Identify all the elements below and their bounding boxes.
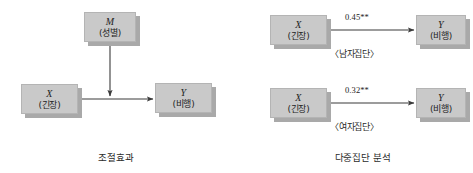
node-moderator-m: M (성별) — [84, 12, 136, 42]
node-variable-symbol: Y — [181, 87, 187, 98]
group-label-female: 〈여자집단〉 — [330, 120, 379, 133]
node-variable-label: (비행) — [172, 99, 194, 109]
node-independent-x-moderation: X (긴장) — [21, 84, 78, 114]
group-label-male: 〈남자집단〉 — [330, 47, 379, 60]
figure-canvas: M (성별) X (긴장) Y (비행) 조절효과 X (긴장) Y (비행) … — [0, 0, 473, 173]
path-coefficient-male: 0.45** — [345, 12, 369, 22]
caption-moderation: 조절효과 — [0, 150, 232, 164]
node-variable-symbol: Y — [438, 19, 444, 30]
node-dependent-y-moderation: Y (비행) — [155, 83, 212, 113]
node-variable-label: (긴장) — [38, 100, 60, 110]
caption-multigroup: 다중집단 분석 — [252, 150, 473, 164]
path-coefficient-female: 0.32** — [345, 85, 369, 95]
node-variable-label: (긴장) — [287, 31, 309, 41]
node-variable-label: (긴장) — [287, 104, 309, 114]
node-variable-symbol: M — [106, 16, 115, 27]
node-variable-label: (성별) — [99, 28, 121, 38]
node-dependent-y-male: Y (비행) — [416, 15, 466, 45]
node-dependent-y-female: Y (비행) — [416, 88, 466, 118]
node-variable-symbol: Y — [438, 92, 444, 103]
node-variable-symbol: X — [46, 88, 52, 99]
node-independent-x-male: X (긴장) — [270, 15, 327, 45]
node-variable-label: (비행) — [430, 31, 452, 41]
node-variable-label: (비행) — [430, 104, 452, 114]
node-variable-symbol: X — [295, 19, 301, 30]
node-variable-symbol: X — [295, 92, 301, 103]
node-independent-x-female: X (긴장) — [270, 88, 327, 118]
